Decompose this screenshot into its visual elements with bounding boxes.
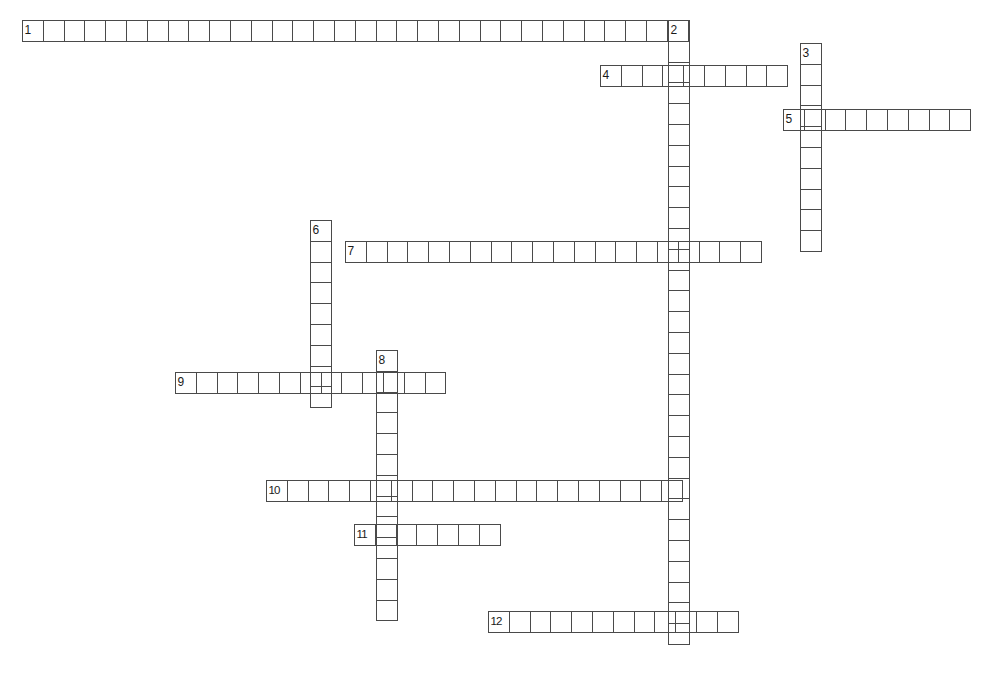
grid-cell[interactable] [683,65,705,87]
grid-cell[interactable] [376,600,398,622]
grid-cell[interactable] [536,480,558,502]
grid-cell[interactable]: 12 [488,611,510,633]
grid-cell[interactable] [661,480,683,502]
grid-cell[interactable] [196,372,218,394]
grid-cell[interactable] [310,303,332,325]
grid-cell[interactable] [376,412,398,434]
grid-cell[interactable]: 8 [376,350,398,372]
grid-cell[interactable] [668,436,690,458]
grid-cell[interactable] [654,611,676,633]
grid-cell[interactable] [370,480,392,502]
grid-cell[interactable] [668,311,690,333]
grid-cell[interactable] [532,241,554,263]
grid-cell[interactable] [668,186,690,208]
grid-cell[interactable] [646,20,668,42]
grid-cell[interactable] [509,611,531,633]
grid-cell[interactable] [578,480,600,502]
grid-cell[interactable] [479,524,501,546]
grid-cell[interactable] [929,109,951,131]
grid-cell[interactable] [746,65,768,87]
grid-cell[interactable] [341,372,363,394]
grid-cell[interactable] [668,394,690,416]
grid-cell[interactable] [438,20,460,42]
grid-cell[interactable] [480,20,502,42]
grid-cell[interactable] [383,372,405,394]
grid-cell[interactable] [719,241,741,263]
grid-cell[interactable] [376,392,398,414]
grid-cell[interactable] [675,611,697,633]
grid-cell[interactable] [662,65,684,87]
grid-cell[interactable] [449,241,471,263]
grid-cell[interactable] [147,20,169,42]
grid-cell[interactable] [668,457,690,479]
grid-cell[interactable] [668,519,690,541]
grid-cell[interactable] [521,20,543,42]
grid-cell[interactable] [416,524,438,546]
grid-cell[interactable] [237,372,259,394]
grid-cell[interactable] [64,20,86,42]
grid-cell[interactable] [725,65,747,87]
grid-cell[interactable] [511,241,533,263]
grid-cell[interactable] [668,540,690,562]
grid-cell[interactable] [592,611,614,633]
grid-cell[interactable] [328,480,350,502]
grid-cell[interactable] [553,241,575,263]
grid-cell[interactable] [621,65,643,87]
grid-cell[interactable] [355,20,377,42]
grid-cell[interactable] [699,241,721,263]
grid-cell[interactable] [613,611,635,633]
grid-cell[interactable] [126,20,148,42]
grid-cell[interactable]: 6 [310,220,332,242]
grid-cell[interactable] [740,241,762,263]
grid-cell[interactable] [188,20,210,42]
grid-cell[interactable] [437,524,459,546]
grid-cell[interactable] [258,372,280,394]
grid-cell[interactable] [908,109,930,131]
grid-cell[interactable] [458,524,480,546]
grid-cell[interactable] [825,109,847,131]
grid-cell[interactable] [407,241,429,263]
grid-cell[interactable]: 7 [345,241,367,263]
grid-cell[interactable] [251,20,273,42]
word-11-across[interactable]: 11 [354,524,501,546]
grid-cell[interactable] [642,65,664,87]
grid-cell[interactable]: 9 [175,372,197,394]
grid-cell[interactable] [636,241,658,263]
grid-cell[interactable]: 5 [783,109,805,131]
grid-cell[interactable] [310,241,332,263]
grid-cell[interactable] [310,282,332,304]
grid-cell[interactable] [678,241,700,263]
grid-cell[interactable] [310,262,332,284]
grid-cell[interactable] [668,415,690,437]
grid-cell[interactable] [84,20,106,42]
grid-cell[interactable] [491,241,513,263]
grid-cell[interactable] [432,480,454,502]
word-12-across[interactable]: 12 [488,611,739,633]
grid-cell[interactable]: 4 [600,65,622,87]
grid-cell[interactable] [604,20,626,42]
grid-cell[interactable] [310,345,332,367]
grid-cell[interactable] [634,611,656,633]
grid-cell[interactable] [717,611,739,633]
word-3-down[interactable]: 3 [800,43,822,252]
grid-cell[interactable] [668,290,690,312]
grid-cell[interactable] [668,561,690,583]
grid-cell[interactable] [396,20,418,42]
grid-cell[interactable] [230,20,252,42]
grid-cell[interactable] [310,324,332,346]
grid-cell[interactable] [366,241,388,263]
grid-cell[interactable] [668,145,690,167]
grid-cell[interactable] [668,332,690,354]
word-9-across[interactable]: 9 [175,372,446,394]
grid-cell[interactable] [800,64,822,86]
grid-cell[interactable] [362,372,384,394]
grid-cell[interactable] [625,20,647,42]
grid-cell[interactable] [584,20,606,42]
grid-cell[interactable] [657,241,679,263]
grid-cell[interactable]: 2 [668,20,690,42]
grid-cell[interactable] [668,207,690,229]
grid-cell[interactable] [668,582,690,604]
grid-cell[interactable] [308,480,330,502]
grid-cell[interactable] [800,209,822,231]
grid-cell[interactable] [217,372,239,394]
